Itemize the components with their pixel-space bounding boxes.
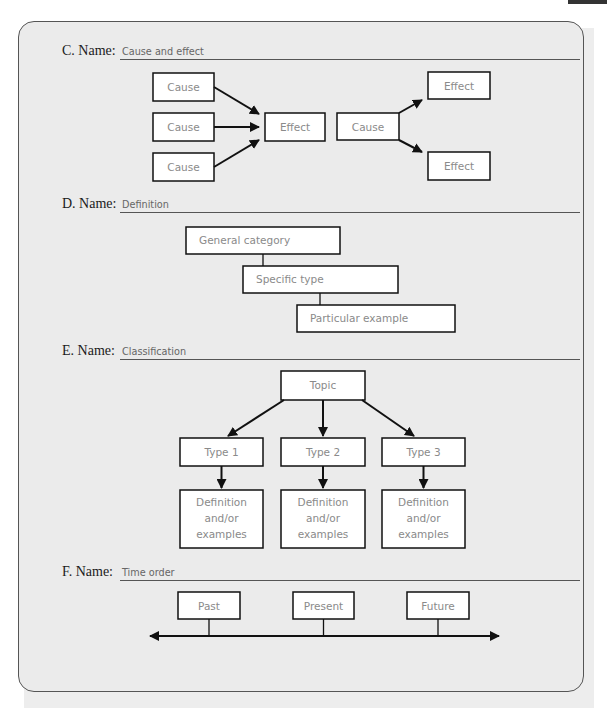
- type-label: Type 2: [305, 446, 340, 458]
- specific-type-box: Specific type: [243, 266, 398, 293]
- cause-box: Cause: [153, 73, 214, 101]
- detail-box: Definition and/or examples: [382, 490, 465, 548]
- time-point-label: Present: [304, 600, 343, 612]
- classification-diagram: Topic Type 1 Type 2 Type 3 Definition an…: [180, 371, 465, 548]
- detail-line: and/or: [204, 512, 239, 524]
- specific-type-label: Specific type: [256, 273, 324, 285]
- arrow-topic-to-type: [362, 400, 414, 436]
- general-category-box: General category: [186, 227, 340, 254]
- type-box: Type 1: [180, 438, 263, 466]
- detail-line: Definition: [398, 496, 449, 508]
- type-label: Type 1: [203, 446, 238, 458]
- arrow-cause-to-effect: [399, 100, 422, 113]
- cause-effect-diagram: Cause Cause Cause Effect Cause Effect: [153, 72, 490, 181]
- time-point-box: Future: [407, 592, 469, 619]
- detail-line: examples: [196, 528, 247, 540]
- detail-line: and/or: [306, 512, 341, 524]
- arrow-topic-to-type: [228, 400, 284, 436]
- particular-example-box: Particular example: [297, 305, 455, 332]
- type-label: Type 3: [405, 446, 440, 458]
- time-point-box: Present: [293, 592, 354, 619]
- detail-line: examples: [298, 528, 349, 540]
- cause-box-label: Cause: [167, 161, 199, 173]
- time-order-diagram: Past Present Future: [150, 592, 499, 636]
- detail-box: Definition and/or examples: [180, 490, 263, 548]
- effect-box-label: Effect: [444, 160, 474, 172]
- arrow-cause-to-effect: [399, 140, 422, 152]
- detail-line: examples: [398, 528, 449, 540]
- arrow-cause-to-effect: [214, 140, 259, 167]
- effect-box: Effect: [265, 113, 325, 141]
- detail-line: Definition: [298, 496, 349, 508]
- type-box: Type 3: [382, 438, 465, 466]
- cause-box-label: Cause: [352, 121, 384, 133]
- topic-label: Topic: [309, 379, 337, 391]
- general-category-label: General category: [199, 234, 290, 246]
- cause-box: Cause: [153, 153, 214, 181]
- cause-box: Cause: [337, 113, 399, 140]
- detail-line: Definition: [196, 496, 247, 508]
- definition-diagram: General category Specific type Particula…: [186, 227, 455, 332]
- diagrams-canvas: Cause Cause Cause Effect Cause Effect: [0, 0, 607, 724]
- time-point-label: Future: [421, 600, 454, 612]
- type-box: Type 2: [281, 438, 365, 466]
- effect-box: Effect: [428, 152, 490, 180]
- cause-box: Cause: [153, 113, 214, 141]
- effect-box: Effect: [428, 72, 490, 99]
- topic-box: Topic: [281, 371, 365, 400]
- detail-line: and/or: [406, 512, 441, 524]
- effect-box-label: Effect: [444, 80, 474, 92]
- detail-box: Definition and/or examples: [281, 490, 365, 548]
- arrow-cause-to-effect: [214, 87, 259, 114]
- cause-box-label: Cause: [167, 81, 199, 93]
- time-point-label: Past: [198, 600, 220, 612]
- effect-box-label: Effect: [280, 121, 310, 133]
- time-point-box: Past: [178, 592, 240, 619]
- cause-box-label: Cause: [167, 121, 199, 133]
- particular-example-label: Particular example: [310, 312, 408, 324]
